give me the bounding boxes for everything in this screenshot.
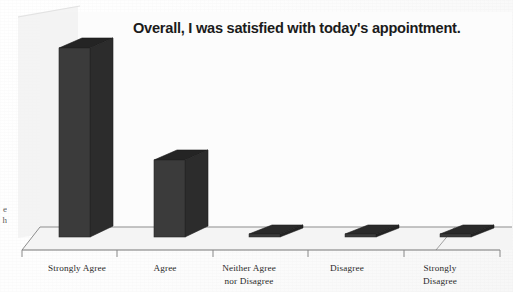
category-label-strongly-disagree: Strongly Disagree <box>400 262 480 287</box>
chart-screenshot: e h <box>0 0 513 292</box>
bar-front-face <box>249 234 280 237</box>
bar-agree[interactable] <box>154 150 208 237</box>
axis-ticks <box>22 250 500 257</box>
category-label-strongly-agree: Strongly Agree <box>22 262 132 275</box>
bar-front-face <box>154 160 185 237</box>
bar-chart-3d <box>0 0 513 292</box>
bar-strongly-agree[interactable] <box>59 38 113 237</box>
bar-front-face <box>440 234 471 237</box>
bar-front-face <box>345 234 376 237</box>
bar-front-face <box>59 48 90 237</box>
bar-side-face <box>90 38 113 237</box>
category-label-neither-agree-nor-disagree: Neither Agree nor Disagree <box>203 262 295 287</box>
category-label-disagree: Disagree <box>310 262 384 275</box>
bar-side-face <box>185 150 208 237</box>
chart-title: Overall, I was satisfied with today's ap… <box>133 20 505 36</box>
category-label-agree: Agree <box>130 262 200 275</box>
